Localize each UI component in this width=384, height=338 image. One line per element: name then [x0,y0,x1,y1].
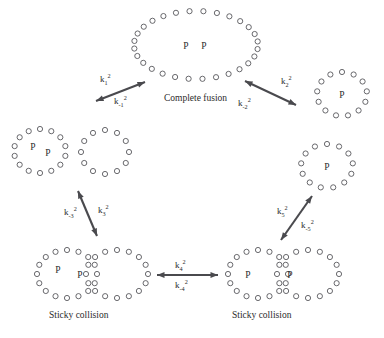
lipid-unit [252,31,257,36]
rate-label-k3-forward: k32 [98,203,109,216]
lipid-unit [103,249,108,254]
lipid-unit [37,126,42,131]
lipid-unit [160,71,165,76]
rate-label-k2-reverse: k-22 [238,96,251,109]
lipid-unit [53,249,58,254]
rate-label-k4-reverse: k-42 [175,278,188,291]
lipid-unit [244,294,249,299]
lipid-unit [86,262,91,267]
lipid-unit [228,281,233,286]
lipid-unit [333,113,338,118]
lipid-unit [86,254,91,259]
lipid-unit [267,249,272,254]
lipid-unit [334,281,339,286]
lipid-unit [213,75,218,80]
lipid-unit [244,249,249,254]
lipid-unit [318,185,323,190]
lipid-unit [143,281,148,286]
lipid-unit [126,249,131,254]
lipid-unit [234,254,239,259]
lipid-unit [252,54,257,59]
lipid-unit [114,247,119,252]
arrow-shaft [281,196,312,240]
cargo-label-complete-fusion-0: P [183,41,188,51]
lipid-unit [277,254,282,259]
lipid-unit [141,60,146,65]
caption-sticky-collision-right: Sticky collision [232,310,292,320]
lipid-unit [294,249,299,254]
lipid-unit [114,168,119,173]
lipid-unit [49,168,54,173]
lipid-unit [274,271,279,276]
lipid-unit [349,171,354,176]
lipid-unit [76,249,81,254]
transition-k3 [78,191,97,236]
lipid-unit [345,113,350,118]
lipid-unit [63,153,68,158]
lipid-unit [92,288,97,293]
lipid-unit [26,129,31,134]
lipid-unit [90,168,95,173]
lipid-unit [49,129,54,134]
lipid-unit [86,288,91,293]
lipid-unit [135,53,140,58]
lipid-unit [143,262,148,267]
lipid-unit [364,89,369,94]
lipid-unit [173,10,178,15]
lipid-unit [339,69,344,74]
lipid-unit [132,38,137,43]
lipid-unit [225,271,230,276]
arrow-head [96,95,104,101]
lipid-unit [300,171,305,176]
lipid-unit [246,25,251,30]
lipid-unit [145,271,150,276]
lipid-unit [126,294,131,299]
lipid-unit [317,249,322,254]
cargo-label-complete-fusion-1: P [201,41,206,51]
lipid-unit [136,288,141,293]
lipid-unit [114,130,119,135]
lipid-unit [150,18,155,23]
cargo-label-left-middle-pair-1: P [45,148,50,158]
vesicle-sticky-collision-right-0 [225,247,290,300]
lipid-unit [43,254,48,259]
lipid-unit [92,254,97,259]
rate-label-k1-reverse: k-12 [114,94,127,107]
lipid-unit [63,144,68,149]
lipid-unit [53,294,58,299]
arrow-head [211,272,219,278]
lipid-unit [294,294,299,299]
lipid-unit [317,294,322,299]
lipid-unit [327,288,332,293]
arrow-head [91,228,97,236]
vesicle-sticky-collision-right-1 [274,247,341,300]
lipid-unit [26,168,31,173]
rate-label-k2-forward: k22 [281,74,292,87]
lipid-unit [283,281,288,286]
lipid-unit [267,294,272,299]
lipid-unit [246,61,251,66]
lipid-unit [103,294,108,299]
arrow-head [157,272,165,278]
lipid-unit [187,9,192,14]
lipid-unit [237,67,242,72]
cargo-label-left-middle-pair-0: P [30,142,35,152]
lipid-unit [331,185,336,190]
rate-label-k1-forward: k12 [100,72,111,85]
lipid-unit [234,288,239,293]
lipid-unit [136,254,141,259]
lipid-unit [82,160,87,165]
lipid-unit [161,13,166,18]
vesicle-complete-fusion-0 [132,9,261,82]
lipid-unit [324,141,329,146]
lipid-unit [277,262,282,267]
lipid-unit [238,19,243,24]
lipid-unit [283,254,288,259]
lipid-unit [34,271,39,276]
lipid-unit [363,99,368,104]
lipid-unit [17,162,22,167]
lipid-unit [135,31,140,36]
lipid-unit [58,135,63,140]
lipid-unit [76,294,81,299]
lipid-unit [200,76,205,81]
